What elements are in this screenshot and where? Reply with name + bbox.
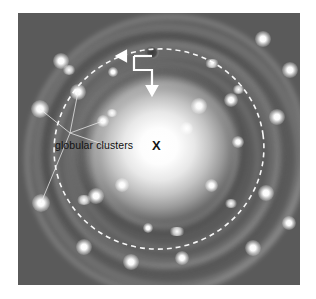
- arm-knot: [204, 59, 220, 68]
- figure-astronomy-annotated-galaxy: globular clusters X: [0, 0, 316, 299]
- globular-cluster-point: [205, 179, 218, 192]
- globular-clusters-label: globular clusters: [55, 139, 133, 151]
- globular-cluster-point: [282, 216, 296, 230]
- globular-cluster-point: [97, 115, 109, 127]
- galactic-center-marker: X: [152, 138, 161, 153]
- globular-cluster-point: [255, 31, 271, 47]
- globular-cluster-point: [123, 254, 139, 270]
- globular-cluster-point: [32, 194, 50, 212]
- globular-cluster-point: [282, 62, 299, 79]
- sun-position-marker: [145, 46, 159, 59]
- globular-cluster-point: [191, 98, 207, 114]
- globular-cluster-point: [180, 122, 193, 135]
- globular-cluster-point: [31, 100, 49, 118]
- arm-knot: [232, 85, 245, 94]
- globular-cluster-point: [88, 188, 104, 204]
- arm-knot: [224, 199, 238, 208]
- arm-knot: [106, 109, 118, 117]
- arm-knot: [168, 227, 186, 236]
- globular-cluster-point: [232, 136, 244, 148]
